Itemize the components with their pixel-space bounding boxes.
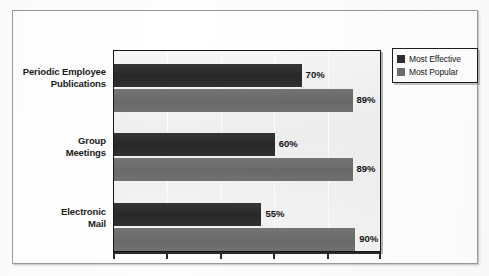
bar-most-popular-group-meetings[interactable] bbox=[114, 158, 353, 181]
category-label-line: Meetings bbox=[8, 147, 106, 159]
legend-swatch-icon-most-popular bbox=[397, 68, 405, 76]
category-label-line: Publications bbox=[8, 78, 106, 90]
category-label-line: Periodic Employee bbox=[8, 66, 106, 78]
bar-most-popular-periodic-employee-publications[interactable] bbox=[114, 89, 353, 112]
gridline-80 bbox=[328, 51, 329, 251]
bar-value-most-popular-periodic-employee-publications: 89% bbox=[357, 94, 376, 105]
bar-value-most-popular-group-meetings: 89% bbox=[357, 163, 376, 174]
bar-value-most-effective-periodic-employee-publications: 70% bbox=[306, 69, 325, 80]
bar-most-effective-group-meetings[interactable] bbox=[114, 133, 275, 156]
legend-label-most-effective: Most Effective bbox=[409, 54, 461, 64]
legend-swatch-icon-most-effective bbox=[397, 55, 405, 63]
bar-value-most-effective-electronic-mail: 55% bbox=[265, 208, 284, 219]
legend-label-most-popular: Most Popular bbox=[409, 67, 458, 77]
bar-value-most-popular-electronic-mail: 90% bbox=[359, 233, 378, 244]
x-axis-tick-20 bbox=[166, 252, 168, 259]
category-label-line: Electronic bbox=[8, 206, 106, 218]
bar-chart: Periodic Employee Publications Group Mee… bbox=[0, 0, 489, 276]
x-axis bbox=[113, 252, 381, 264]
x-axis-line bbox=[113, 252, 381, 254]
x-axis-tick-100 bbox=[379, 252, 381, 259]
category-label-electronic-mail: Electronic Mail bbox=[8, 206, 106, 229]
bar-most-effective-electronic-mail[interactable] bbox=[114, 203, 261, 226]
category-label-line: Mail bbox=[8, 218, 106, 230]
bar-value-most-effective-group-meetings: 60% bbox=[279, 138, 298, 149]
x-axis-tick-60 bbox=[273, 252, 275, 259]
bar-most-popular-electronic-mail[interactable] bbox=[114, 228, 355, 251]
chart-legend: Most Effective Most Popular bbox=[392, 48, 478, 83]
x-axis-tick-0 bbox=[113, 252, 115, 259]
bar-most-effective-periodic-employee-publications[interactable] bbox=[114, 64, 302, 87]
plot-area: 70% 89% 60% 89% 55% 90% bbox=[113, 50, 381, 252]
category-label-group-meetings: Group Meetings bbox=[8, 135, 106, 158]
x-axis-tick-40 bbox=[220, 252, 222, 259]
category-label-line: Group bbox=[8, 135, 106, 147]
category-label-periodic-employee-publications: Periodic Employee Publications bbox=[8, 66, 106, 89]
legend-item-most-effective[interactable]: Most Effective bbox=[397, 52, 473, 65]
x-axis-tick-80 bbox=[327, 252, 329, 259]
legend-item-most-popular[interactable]: Most Popular bbox=[397, 65, 473, 78]
